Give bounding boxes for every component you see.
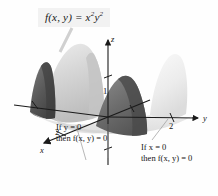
annotation-y-zero: If y = 0 then f(x, y) = 0 (56, 122, 107, 144)
z-tick-label-1: 1 (103, 87, 107, 96)
surface-lobe-far-left (30, 62, 55, 119)
surface-lobe-far-right (150, 54, 187, 119)
equation-exponent-y: 2 (99, 10, 103, 18)
y-axis-label: y (203, 114, 207, 123)
surface-plot-figure: f(x, y) = x2y2 z y x 1 2 2 If y = 0 then… (0, 0, 218, 196)
annotation-y-zero-line2: then f(x, y) = 0 (56, 133, 107, 144)
annotation-x-zero-line2: then f(x, y) = 0 (141, 153, 192, 164)
annotation-y-zero-line1: If y = 0 (56, 122, 107, 133)
equation-lhs: f(x, y) = (45, 11, 86, 23)
equation-label: f(x, y) = x2y2 (38, 8, 110, 27)
annotation-x-zero-line1: If x = 0 (141, 142, 192, 153)
y-tick-label-2: 2 (169, 122, 173, 131)
x-axis-label: x (40, 146, 44, 155)
z-axis-label: z (111, 35, 114, 44)
plot-canvas (0, 0, 218, 196)
annotation-x-zero: If x = 0 then f(x, y) = 0 (141, 142, 192, 164)
